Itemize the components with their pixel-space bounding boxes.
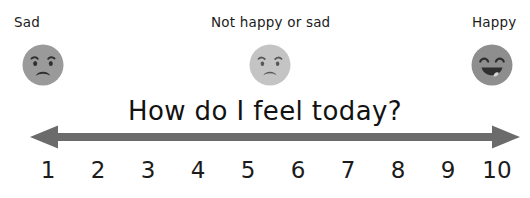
scale-number-7: 7 (341, 159, 356, 182)
page-title: How do I feel today? (0, 98, 530, 124)
anchor-label-neutral: Not happy or sad (211, 16, 330, 30)
scale-number-2: 2 (91, 159, 106, 182)
anchor-label-happy: Happy (472, 16, 517, 30)
double-headed-arrow-icon (28, 124, 522, 150)
happy-face-icon (471, 44, 513, 86)
feelings-rating-scale: Sad Not happy or sad Happy (0, 0, 530, 198)
scale-number-5: 5 (241, 159, 256, 182)
sad-face-icon (22, 44, 64, 86)
scale-number-3: 3 (141, 159, 156, 182)
neutral-sad-face-icon (249, 44, 291, 86)
scale-number-8: 8 (391, 159, 406, 182)
scale-number-row: 1 2 3 4 5 6 7 8 9 10 (0, 159, 530, 191)
scale-number-4: 4 (191, 159, 206, 182)
scale-number-6: 6 (291, 159, 306, 182)
scale-number-9: 9 (441, 159, 456, 182)
scale-number-1: 1 (41, 159, 56, 182)
scale-number-10: 10 (482, 159, 511, 182)
anchor-label-sad: Sad (14, 16, 40, 30)
